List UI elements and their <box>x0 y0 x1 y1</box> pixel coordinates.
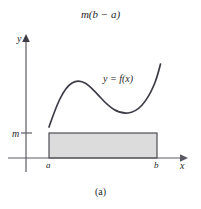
tick-label-a: a <box>46 161 51 170</box>
figure-container: m(b − a) y x m a b y = f(x) (a) <box>0 0 201 209</box>
title-expression: m(b − a) <box>0 9 201 20</box>
figure-graphic <box>0 0 201 209</box>
figure-caption: (a) <box>0 186 201 197</box>
axis-label-y: y <box>17 34 21 44</box>
tick-label-m: m <box>12 129 19 139</box>
y-axis-arrowhead <box>22 34 30 42</box>
rectangle-m-times-b-minus-a <box>49 133 157 158</box>
curve-label: y = f(x) <box>103 74 133 84</box>
axis-label-x: x <box>180 161 184 171</box>
tick-label-b: b <box>154 161 159 170</box>
